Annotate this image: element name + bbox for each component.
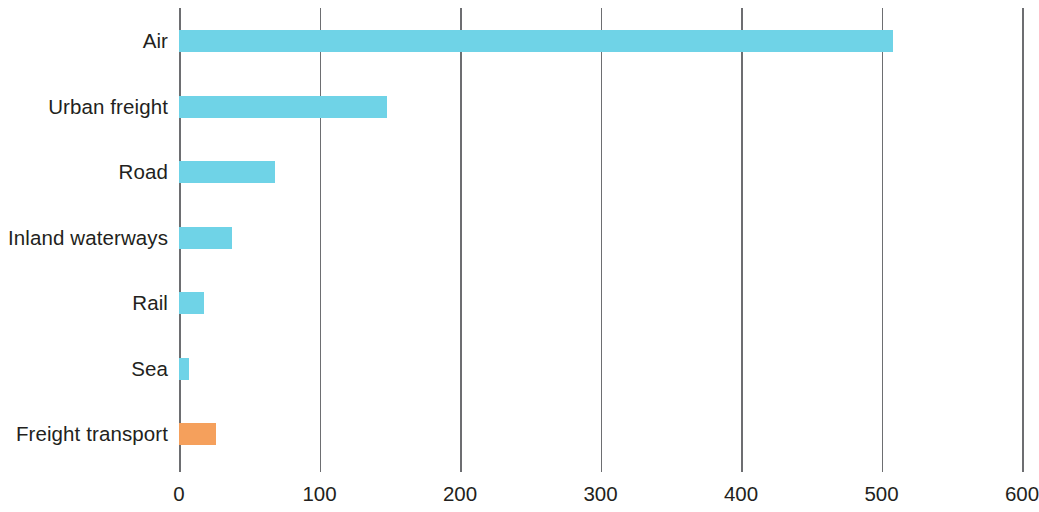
bar-row xyxy=(179,161,1022,183)
x-tick-label: 300 xyxy=(583,482,617,506)
category-label: Freight transport xyxy=(0,423,168,445)
bar xyxy=(179,227,232,249)
x-tick-label: 500 xyxy=(864,482,898,506)
x-tick-label: 600 xyxy=(1005,482,1039,506)
x-tick-label: 100 xyxy=(302,482,336,506)
bar-row xyxy=(179,30,1022,52)
x-tick-label: 400 xyxy=(724,482,758,506)
bar xyxy=(179,161,275,183)
bar-row xyxy=(179,423,1022,445)
category-label: Rail xyxy=(0,292,168,314)
category-label: Urban freight xyxy=(0,96,168,118)
bar-row xyxy=(179,358,1022,380)
bar-row xyxy=(179,292,1022,314)
bar-row xyxy=(179,96,1022,118)
category-label: Road xyxy=(0,161,168,183)
bar xyxy=(179,292,204,314)
bar xyxy=(179,96,387,118)
bar xyxy=(179,423,216,445)
plot-area xyxy=(179,8,1022,472)
category-label: Inland waterways xyxy=(0,227,168,249)
gridline-600 xyxy=(1022,8,1024,472)
bar-row xyxy=(179,227,1022,249)
x-tick-label: 0 xyxy=(173,482,184,506)
category-label: Air xyxy=(0,30,168,52)
bar xyxy=(179,358,189,380)
bar xyxy=(179,30,893,52)
x-tick-label: 200 xyxy=(443,482,477,506)
category-label: Sea xyxy=(0,358,168,380)
